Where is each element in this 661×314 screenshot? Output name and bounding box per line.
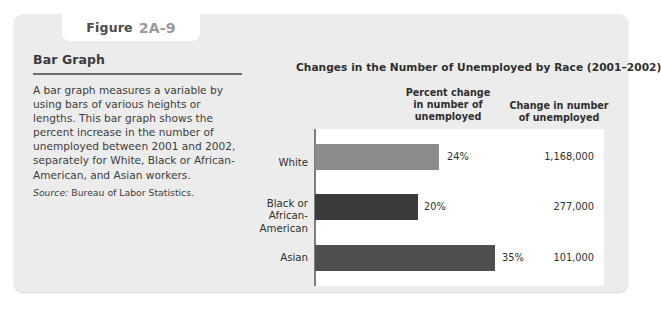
bar-value-label-black: 20% — [424, 201, 446, 212]
source-line: Source: Bureau of Labor Statistics. — [33, 187, 245, 199]
heading-divider — [33, 73, 242, 75]
column-header-percent-line2: in number of — [400, 99, 496, 111]
column-header-change-in-number: Change in number of unemployed — [506, 100, 612, 124]
bar-count-label-asian: 101,000 — [504, 252, 594, 263]
bar-white — [315, 144, 439, 170]
figure-number-tab: Figure 2A-9 — [62, 14, 200, 41]
bar-count-label-black: 277,000 — [504, 201, 594, 212]
plot-panel: 24% 1,168,000 20% 277,000 35% 101,000 — [314, 129, 604, 286]
source-label: Source: — [33, 187, 68, 198]
category-label-black-line1: Black or — [230, 198, 308, 210]
column-header-percent-change: Percent change in number of unemployed — [400, 87, 496, 124]
figure-number-label: 2A-9 — [139, 20, 176, 36]
category-label-white: White — [230, 157, 308, 169]
bar-black-or-african-american — [315, 194, 418, 220]
category-label-white-line1: White — [230, 157, 308, 169]
column-header-percent-line3: unemployed — [400, 111, 496, 123]
figure-card: Figure 2A-9 Bar Graph A bar graph measur… — [14, 14, 628, 292]
panel-body-text: A bar graph measures a variable by using… — [33, 83, 245, 182]
category-label-black-line3: American — [230, 223, 308, 235]
bar-asian — [315, 245, 495, 271]
panel-heading: Bar Graph — [33, 52, 245, 67]
source-text: Bureau of Labor Statistics. — [71, 187, 194, 198]
bar-count-label-white: 1,168,000 — [504, 151, 594, 162]
explanation-panel: Bar Graph A bar graph measures a variabl… — [33, 52, 245, 199]
chart-title: Changes in the Number of Unemployed by R… — [296, 61, 646, 73]
bar-value-label-white: 24% — [447, 151, 469, 162]
category-label-black-or-african-american: Black or African- American — [230, 198, 308, 235]
category-label-asian: Asian — [230, 252, 308, 264]
category-label-black-line2: African- — [230, 210, 308, 222]
column-header-number-line1: Change in number — [506, 100, 612, 112]
category-label-asian-line1: Asian — [230, 252, 308, 264]
column-header-percent-line1: Percent change — [400, 87, 496, 99]
column-header-number-line2: of unemployed — [506, 112, 612, 124]
figure-word-label: Figure — [86, 20, 133, 35]
